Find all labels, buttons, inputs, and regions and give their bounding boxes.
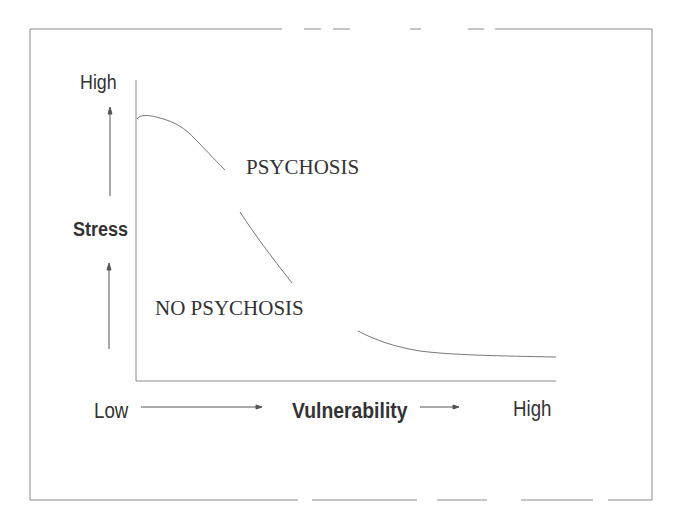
region-no-psychosis-label: NO PSYCHOSIS	[155, 296, 304, 321]
x-axis-low-label: Low	[94, 398, 128, 424]
outer-frame	[30, 29, 652, 500]
y-axis-high-label: High	[80, 70, 117, 94]
x-arrow-right	[420, 405, 459, 409]
y-axis-label: Stress	[73, 218, 128, 241]
x-arrow-left	[141, 405, 262, 409]
y-arrow-upper	[108, 107, 112, 196]
x-axis-label: Vulnerability	[292, 398, 407, 424]
region-psychosis-label: PSYCHOSIS	[246, 155, 359, 180]
y-arrow-lower	[107, 263, 111, 349]
x-axis-high-label: High	[513, 396, 551, 422]
